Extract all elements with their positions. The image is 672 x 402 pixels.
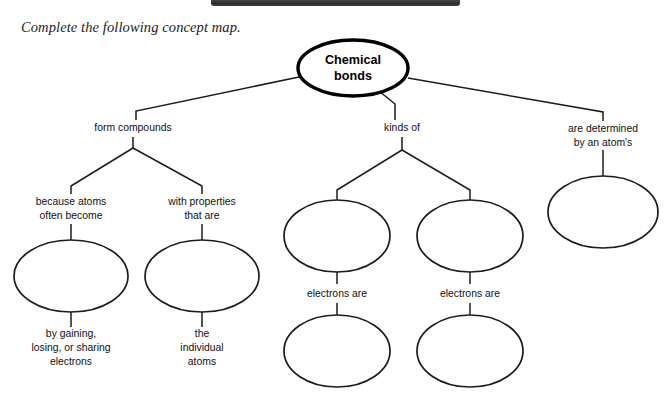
label-because-atoms-line2: often become [40,210,103,221]
connector-form-compounds-fork-right [133,148,202,194]
connector-kinds-of-fork-left [337,150,402,200]
label-by-gaining-line2: losing, or sharing [31,342,110,353]
label-with-properties-line1: with properties [167,196,236,207]
blank-ellipse-kind-left-upper[interactable] [284,200,390,272]
connector-root-to-kinds-of [379,91,395,120]
connector-kinds-of-fork-right [402,150,470,200]
label-kinds-of: kinds of [384,122,420,133]
blank-ellipse-kind-right-lower[interactable] [417,315,523,387]
label-form-compounds: form compounds [94,122,171,133]
blank-ellipse-kind-right-upper[interactable] [417,200,523,272]
connector-form-compounds-fork-left [71,148,133,194]
label-the-individual-line3: atoms [188,356,216,367]
blank-ellipse-kind-left-lower[interactable] [284,315,390,387]
label-the-individual-line2: individual [180,342,223,353]
blank-ellipse-atom-property[interactable] [548,176,658,248]
label-electrons-are-right: electrons are [440,288,500,299]
label-because-atoms-line1: because atoms [36,196,106,207]
label-by-gaining-line1: by gaining, [46,328,96,339]
label-by-gaining-line3: electrons [50,356,92,367]
blank-ellipse-because-atoms[interactable] [14,240,128,312]
root-node-chemical-bonds[interactable] [298,40,408,96]
label-are-determined-line1: are determined [568,123,638,134]
connector-root-to-are-determined [408,78,603,121]
blank-ellipse-with-properties[interactable] [145,240,259,312]
connector-root-to-form-compounds [136,77,299,120]
root-node-label-line1: Chemical [325,53,381,67]
page-bottom-edge [0,398,672,402]
root-node-label-line2: bonds [334,69,372,83]
label-the-individual-line1: the [195,328,210,339]
label-electrons-are-left: electrons are [307,288,367,299]
label-are-determined-line2: by an atom's [574,137,633,148]
concept-map-diagram: Chemical bonds form compounds kinds of a… [0,0,672,402]
label-with-properties-line2: that are [184,210,219,221]
